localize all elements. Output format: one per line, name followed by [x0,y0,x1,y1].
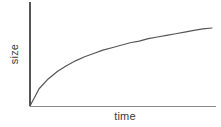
y-axis-label: size [8,40,20,68]
x-axis-label: time [95,110,155,122]
chart-figure: size time [0,0,221,127]
growth-curve-path [30,28,212,106]
plot-area [0,0,221,127]
